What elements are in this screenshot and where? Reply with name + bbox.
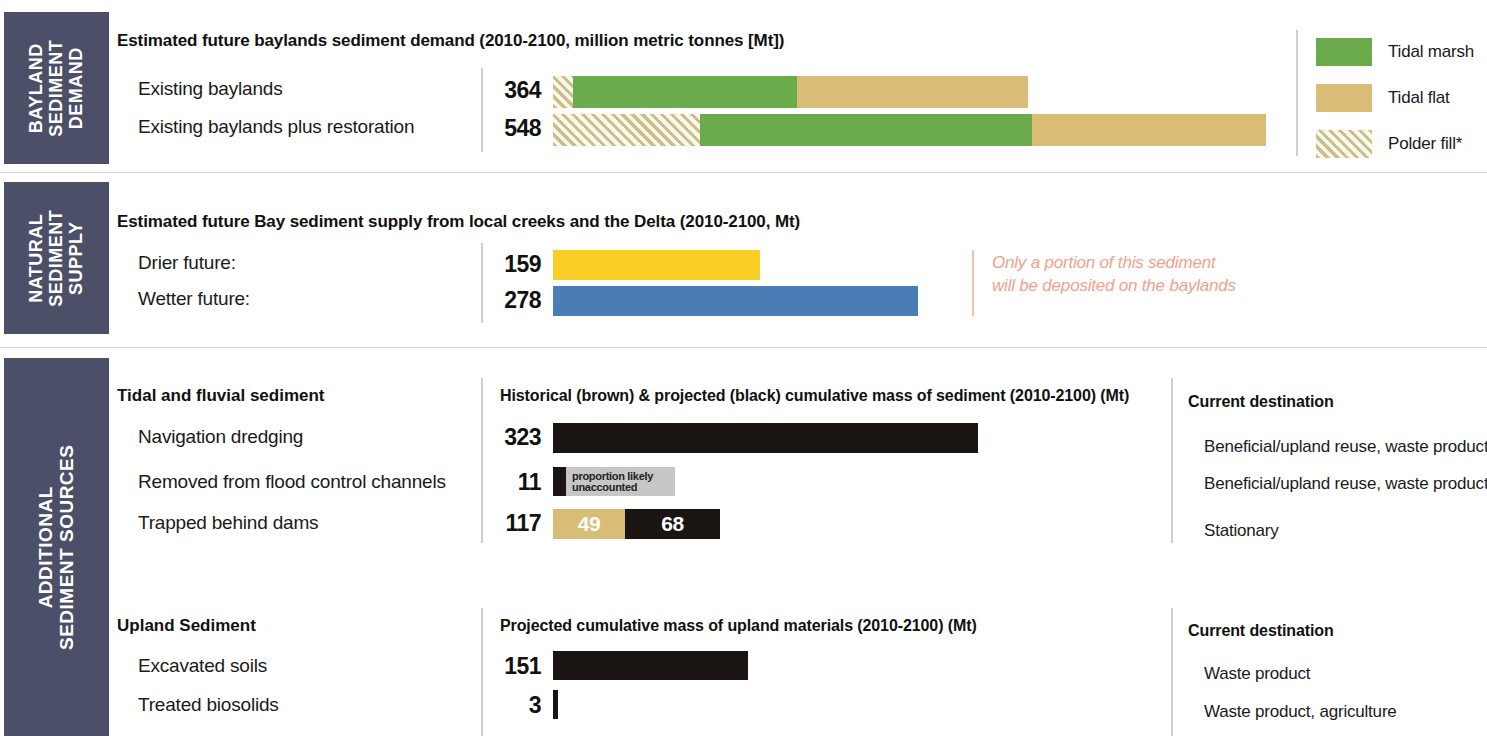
bar-segment-projected: [553, 651, 748, 680]
bar-segment-projected: [553, 467, 566, 496]
tab-line: SEDIMENT: [46, 39, 66, 136]
bar-existing-baylands: [553, 76, 1028, 108]
section-tab-label: BAYLAND SEDIMENT DEMAND: [26, 39, 86, 136]
tab-line: SUPPLY: [67, 209, 87, 306]
tab-line: DEMAND: [67, 39, 87, 136]
bar-segment-unaccounted: proportion likely unaccounted: [566, 467, 675, 496]
row-label-existing-baylands: Existing baylands: [138, 78, 282, 100]
value-excavated-soils: 151: [485, 653, 541, 680]
tab-line: BAYLAND: [26, 39, 46, 136]
bar-treated-biosolids: [553, 690, 558, 719]
legend-label-tidal-marsh: Tidal marsh: [1388, 42, 1474, 62]
section-tab-natural-sediment-supply: NATURAL SEDIMENT SUPPLY: [4, 182, 109, 334]
row-label-wetter-future: Wetter future:: [138, 288, 250, 310]
bar-annotation-unaccounted: proportion likely unaccounted: [572, 471, 653, 493]
bar-segment-projected-value: 68: [625, 512, 720, 536]
section-1-divider: [481, 68, 483, 152]
subhead-tidal-and-fluvial-sediment: Tidal and fluvial sediment: [117, 386, 325, 406]
section-tab-bayland-sediment-demand: BAYLAND SEDIMENT DEMAND: [4, 12, 109, 164]
bar-segment-projected: [553, 690, 558, 719]
destination-removed-from-flood-control-channels: Beneficial/upland reuse, waste product: [1204, 474, 1487, 494]
value-removed-from-flood-control-channels: 11: [495, 469, 541, 496]
chart-head-tidal-fluvial: Historical (brown) & projected (black) c…: [500, 387, 1129, 405]
destination-treated-biosolids: Waste product, agriculture: [1204, 702, 1397, 722]
tab-line: ADDITIONAL: [35, 444, 56, 649]
legend-label-tidal-flat: Tidal flat: [1388, 88, 1450, 108]
bar-segment-drier: [553, 250, 760, 280]
bar-excavated-soils: [553, 651, 748, 680]
bar-navigation-dredging: [553, 423, 978, 453]
dest-head-tidal-fluvial: Current destination: [1188, 393, 1334, 411]
legend-swatch-tidal-marsh: [1316, 38, 1372, 66]
section-separator-2: [0, 347, 1487, 348]
section-tab-label: NATURAL SEDIMENT SUPPLY: [26, 209, 86, 306]
bar-wetter-future: [553, 286, 918, 316]
bar-trapped-behind-dams: 49 68: [553, 509, 720, 539]
value-existing-baylands: 364: [495, 77, 541, 104]
note-portion-of-sediment: Only a portion of this sediment will be …: [992, 252, 1236, 298]
chart-head-upland: Projected cumulative mass of upland mate…: [500, 617, 977, 635]
destination-trapped-behind-dams: Stationary: [1204, 521, 1279, 541]
row-label-removed-from-flood-control-channels: Removed from flood control channels: [138, 471, 446, 493]
legend-divider: [1296, 30, 1298, 156]
value-existing-baylands-plus-restoration: 548: [495, 115, 541, 142]
value-treated-biosolids: 3: [485, 692, 541, 719]
bar-drier-future: [553, 250, 760, 280]
legend-label-polder-fill: Polder fill*: [1388, 134, 1462, 154]
bar-segment-projected: [553, 423, 978, 453]
section-2-title: Estimated future Bay sediment supply fro…: [117, 212, 800, 232]
tab-line: SEDIMENT: [46, 209, 66, 306]
bar-segment-projected: 68: [625, 509, 720, 539]
note-line-1: Only a portion of this sediment: [992, 252, 1236, 275]
annotation-line-2: unaccounted: [572, 482, 653, 493]
bar-existing-baylands-plus-restoration: [553, 114, 1266, 146]
bar-segment-wetter: [553, 286, 918, 316]
bar-segment-historical: 49: [553, 509, 625, 539]
value-navigation-dredging: 323: [495, 424, 541, 451]
bar-segment-polder-fill: [553, 76, 573, 108]
bar-removed-from-flood-control-channels: proportion likely unaccounted: [553, 467, 675, 496]
tab-line: NATURAL: [26, 209, 46, 306]
section-1-title: Estimated future baylands sediment deman…: [117, 31, 784, 51]
row-label-drier-future: Drier future:: [138, 252, 236, 274]
section-2-divider: [481, 243, 483, 323]
section-tab-label: ADDITIONAL SEDIMENT SOURCES: [35, 444, 78, 649]
dest-head-upland: Current destination: [1188, 622, 1334, 640]
section-3a-left-divider: [481, 378, 483, 543]
destination-excavated-soils: Waste product: [1204, 664, 1310, 684]
row-label-navigation-dredging: Navigation dredging: [138, 426, 303, 448]
bar-segment-tidal-flat: [797, 76, 1028, 108]
value-trapped-behind-dams: 117: [485, 510, 541, 537]
section-separator-1: [0, 172, 1487, 173]
bar-segment-historical-value: 49: [553, 512, 625, 536]
row-label-excavated-soils: Excavated soils: [138, 655, 267, 677]
row-label-trapped-behind-dams: Trapped behind dams: [138, 512, 318, 534]
infographic-root: BAYLAND SEDIMENT DEMAND Estimated future…: [0, 0, 1487, 736]
row-label-treated-biosolids: Treated biosolids: [138, 694, 279, 716]
section-3b-right-divider: [1171, 608, 1173, 736]
tab-line: SEDIMENT SOURCES: [57, 444, 78, 649]
value-drier-future: 159: [495, 251, 541, 278]
value-wetter-future: 278: [495, 287, 541, 314]
row-label-existing-baylands-plus-restoration: Existing baylands plus restoration: [138, 116, 414, 138]
bar-segment-tidal-marsh: [573, 76, 797, 108]
bar-segment-tidal-marsh: [700, 114, 1032, 146]
bar-segment-tidal-flat: [1032, 114, 1266, 146]
subhead-upland-sediment: Upland Sediment: [117, 616, 256, 636]
section-3b-left-divider: [481, 608, 483, 736]
section-tab-additional-sediment-sources: ADDITIONAL SEDIMENT SOURCES: [4, 358, 109, 736]
bar-segment-polder-fill: [553, 114, 700, 146]
note-rule: [972, 250, 974, 316]
legend-swatch-tidal-flat: [1316, 84, 1372, 112]
section-3a-right-divider: [1171, 378, 1173, 543]
note-line-2: will be deposited on the baylands: [992, 275, 1236, 298]
destination-navigation-dredging: Beneficial/upland reuse, waste product: [1204, 437, 1487, 457]
legend-swatch-polder-fill: [1316, 130, 1372, 158]
